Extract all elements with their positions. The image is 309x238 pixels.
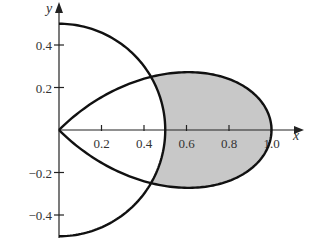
y-tick-label: −0.2 [28, 166, 52, 181]
y-axis-label: y [44, 1, 53, 16]
x-tick-label: 0.2 [93, 136, 109, 151]
x-tick-label: 0.8 [221, 136, 237, 151]
x-tick-label: 0.6 [178, 136, 195, 151]
polar-area-diagram: 0.20.40.60.81.00.40.2−0.2−0.4 x y [0, 0, 309, 238]
y-tick-label: 0.4 [36, 38, 53, 53]
x-tick-label: 0.4 [136, 136, 153, 151]
y-axis-arrow-icon [55, 2, 63, 13]
x-axis-label: x [292, 128, 300, 143]
y-tick-label: −0.4 [28, 208, 52, 223]
y-tick-label: 0.2 [36, 81, 52, 96]
